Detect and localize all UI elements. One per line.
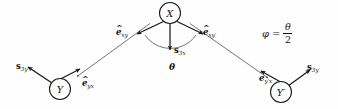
label-e-hat-xyprime: ^exy′ bbox=[203, 28, 216, 38]
diagram-canvas: X Y Y′ bbox=[0, 0, 338, 109]
connector-x-to-yprime bbox=[190, 24, 268, 79]
hat-accent-e-yx: ^ bbox=[82, 74, 87, 82]
node-y: Y bbox=[50, 79, 71, 100]
node-x: X bbox=[160, 3, 181, 24]
label-spin-3y: s3y bbox=[16, 62, 28, 72]
e-sub-xy: xy bbox=[121, 32, 128, 38]
hat-accent-e-xyprime: ^ bbox=[203, 23, 208, 31]
phi-symbol: φ bbox=[262, 28, 269, 39]
label-spin-3yprime: s3y′ bbox=[307, 63, 320, 73]
e-sub-yx: yx bbox=[87, 83, 94, 89]
node-yprime-label: Y′ bbox=[277, 87, 286, 98]
node-yprime: Y′ bbox=[271, 82, 292, 103]
label-e-hat-yx: ^eyx bbox=[82, 79, 94, 89]
arrow-e-xyprime bbox=[177, 22, 203, 35]
e-sub-yprimex: y′x bbox=[264, 78, 272, 84]
e-sub-xyprime: xy′ bbox=[208, 32, 216, 38]
spin-sub-3yprime: 3y′ bbox=[312, 67, 320, 73]
label-spin-3x: s3x bbox=[174, 46, 186, 56]
spin-geometry-diagram: X Y Y′ ^exy ^exy′ ^eyx ^ey′x s3x s3y s3y… bbox=[0, 0, 338, 109]
fraction-denominator: 2 bbox=[284, 34, 292, 45]
phi-equation: φ = θ 2 bbox=[262, 22, 292, 44]
hat-accent-e-xy: ^ bbox=[116, 23, 121, 31]
spin-sub-3x: 3x bbox=[179, 50, 186, 56]
fraction-numerator: θ bbox=[284, 22, 292, 33]
label-e-hat-yprimex: ^ey′x bbox=[259, 74, 272, 84]
connector-x-to-y bbox=[77, 24, 150, 77]
spin-sub-3y: 3y bbox=[21, 66, 28, 72]
label-theta: θ bbox=[169, 63, 175, 72]
node-x-label: X bbox=[166, 8, 175, 19]
hat-accent-e-yprimex: ^ bbox=[259, 69, 264, 77]
equals-symbol: = bbox=[272, 28, 280, 39]
label-e-hat-xy: ^exy bbox=[116, 28, 128, 38]
arrow-spin-3y bbox=[28, 67, 52, 83]
theta-over-two-fraction: θ 2 bbox=[283, 22, 292, 44]
arrow-e-xy bbox=[137, 22, 164, 35]
